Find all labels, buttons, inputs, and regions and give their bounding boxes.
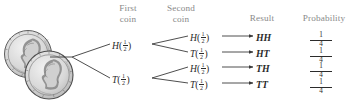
- node-second-coin-1-outcome: H: [190, 32, 197, 43]
- node-first-coin-heads-outcome: H: [112, 40, 119, 51]
- probability-value-TT: 1 4: [310, 79, 332, 95]
- result-label-HT: HT: [256, 48, 270, 59]
- branch-T-to-TT: [152, 78, 188, 83]
- node-second-coin-3-probability: 12: [201, 62, 206, 76]
- tree-branches: [0, 0, 362, 107]
- node-second-coin-heads-after-tails: H(12): [190, 62, 209, 76]
- node-second-coin-3-outcome: H: [190, 63, 197, 74]
- result-label-TH: TH: [256, 63, 270, 74]
- probability-value-TH: 1 4: [310, 63, 332, 79]
- result-label-HH: HH: [256, 32, 271, 43]
- node-second-coin-tails-after-heads: T(12): [190, 47, 208, 61]
- probability-value-HH: 1 4: [310, 32, 332, 48]
- branch-root-to-T: [72, 57, 110, 78]
- node-second-coin-heads-after-heads: H(12): [190, 31, 209, 45]
- node-first-coin-heads: H(12): [112, 39, 131, 53]
- branch-T-to-TH: [152, 67, 188, 78]
- branch-H-to-HT: [152, 44, 188, 52]
- probability-tree-figure: First coin Second coin Result Probabilit…: [0, 0, 362, 107]
- node-second-coin-tails-after-tails: T(12): [190, 78, 208, 92]
- node-first-coin-heads-probability: 12: [123, 39, 128, 53]
- branch-root-to-H: [72, 44, 110, 57]
- branch-H-to-HH: [152, 36, 188, 44]
- result-label-TT: TT: [256, 79, 268, 90]
- node-second-coin-1-probability: 12: [201, 31, 206, 45]
- node-first-coin-tails: T(12): [112, 73, 130, 87]
